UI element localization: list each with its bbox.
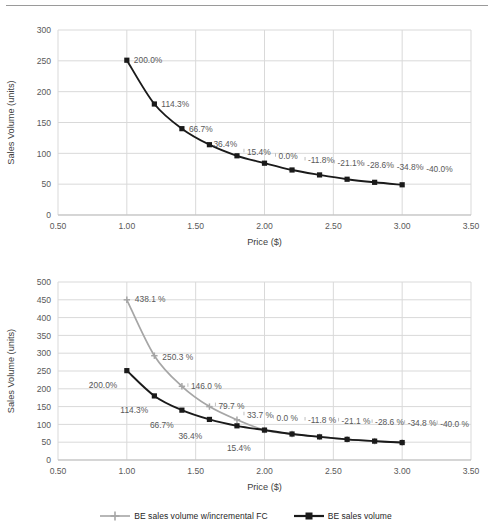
x-axis-tick-label: 0.50: [50, 466, 67, 476]
grid-lines: [58, 30, 471, 215]
data-point-label: -28.6 %: [375, 417, 404, 427]
chart-bottom-container: 0501001502002503003504004505000.501.001.…: [0, 272, 492, 497]
data-point-label: 250.3 %: [162, 352, 193, 362]
y-axis-tick-label: 200: [37, 384, 52, 394]
chart-legend: BE sales volume w/incremental FC BE sale…: [0, 503, 492, 529]
x-axis-tick-label: 3.00: [394, 221, 411, 231]
y-axis-tick-label: 100: [37, 149, 52, 159]
data-point-label: 438.1 %: [135, 294, 166, 304]
x-axis-tick-label: 1.50: [187, 466, 204, 476]
y-axis-tick-labels: 050100150200250300350400450500: [37, 277, 52, 465]
x-axis-title: Price ($): [247, 237, 282, 247]
chart-page: 0501001502002503000.501.001.502.002.503.…: [0, 0, 492, 529]
y-axis-tick-label: 450: [37, 295, 52, 305]
data-point-label: 15.4%: [247, 147, 271, 157]
chart-top-svg: 0501001502002503000.501.001.502.002.503.…: [0, 12, 492, 262]
data-point-label: -21.1%: [338, 158, 365, 168]
x-axis-tick-label: 2.00: [256, 466, 273, 476]
legend-key-cross-icon: [100, 510, 130, 522]
data-point-label: 79.7 %: [218, 401, 245, 411]
y-axis-tick-label: 50: [41, 179, 51, 189]
y-axis-title: Sales Volume (units): [6, 329, 16, 413]
x-axis-tick-label: 1.00: [118, 466, 135, 476]
y-axis-tick-label: 300: [37, 25, 52, 35]
y-axis-tick-label: 350: [37, 331, 52, 341]
legend-label-be-sales-volume: BE sales volume: [328, 511, 392, 521]
x-axis-tick-label: 2.00: [256, 221, 273, 231]
x-axis-tick-label: 1.50: [187, 221, 204, 231]
y-axis-tick-label: 500: [37, 277, 52, 287]
y-axis-tick-labels: 050100150200250300: [37, 25, 52, 220]
chart-top-container: 0501001502002503000.501.001.502.002.503.…: [0, 12, 492, 262]
legend-label-incremental-fc: BE sales volume w/incremental FC: [134, 511, 267, 521]
data-point-label: 146.0 %: [191, 381, 222, 391]
data-point-label: 200.0%: [134, 55, 163, 65]
legend-key-square-icon: [294, 510, 324, 522]
chart-bottom-svg: 0501001502002503003504004505000.501.001.…: [0, 272, 492, 497]
y-axis-tick-label: 100: [37, 420, 52, 430]
y-axis-tick-label: 0: [46, 455, 51, 465]
y-axis-tick-label: 250: [37, 366, 52, 376]
x-axis-tick-labels: 0.501.001.502.002.503.003.50: [50, 466, 480, 476]
y-axis-tick-label: 50: [41, 437, 51, 447]
x-axis-tick-label: 3.50: [463, 221, 480, 231]
x-axis-tick-label: 3.00: [394, 466, 411, 476]
y-axis-tick-label: 150: [37, 118, 52, 128]
data-point-label: 0.0%: [279, 151, 299, 161]
y-axis-tick-label: 300: [37, 348, 52, 358]
data-point-label: 114.3%: [161, 99, 189, 109]
data-point-label: -11.8%: [308, 155, 334, 165]
x-axis-tick-label: 2.50: [325, 221, 342, 231]
x-axis-tick-label: 3.50: [463, 466, 480, 476]
data-point-label: -40.0%: [426, 164, 453, 174]
y-axis-tick-label: 400: [37, 313, 52, 323]
y-axis-title: Sales Volume (units): [6, 80, 16, 164]
x-axis-tick-label: 0.50: [50, 221, 67, 231]
grid-lines: [58, 282, 471, 460]
y-axis-tick-label: 200: [37, 87, 52, 97]
data-point-label: -28.6%: [367, 160, 394, 170]
x-axis-tick-label: 1.00: [118, 221, 135, 231]
x-axis-tick-label: 2.50: [325, 466, 342, 476]
legend-item-be-sales-volume-w-incremental-fc[interactable]: BE sales volume w/incremental FC: [100, 510, 267, 522]
data-point-label: -34.8 %: [408, 418, 437, 428]
series-be-sales-volume: 200.0%114.3%66.7%36.4%15.4%0.0%-11.8%-21…: [124, 55, 453, 187]
data-point-label: -11.8 %: [308, 415, 337, 425]
data-point-label: 114.3%: [120, 405, 148, 415]
data-point-label: -34.8%: [397, 162, 424, 172]
x-axis-tick-labels: 0.501.001.502.002.503.003.50: [50, 221, 480, 231]
data-point-label: 66.7%: [150, 420, 174, 430]
data-point-label: 0.0 %: [277, 413, 299, 423]
x-axis-title: Price ($): [247, 482, 282, 492]
data-point-label: -21.1 %: [342, 416, 371, 426]
legend-item-be-sales-volume[interactable]: BE sales volume: [294, 510, 392, 522]
data-point-label: 15.4%: [227, 443, 251, 453]
data-point-label: 33.7 %: [247, 410, 274, 420]
data-point-label: -40.0 %: [440, 419, 469, 429]
data-point-label: 200.0%: [89, 380, 118, 390]
y-axis-tick-label: 150: [37, 402, 52, 412]
data-point-label: 66.7%: [189, 124, 213, 134]
top-divider-rule: [6, 5, 488, 6]
data-point-label: 36.4%: [213, 139, 237, 149]
y-axis-tick-label: 250: [37, 56, 52, 66]
data-point-label: 36.4%: [178, 431, 202, 441]
y-axis-tick-label: 0: [46, 210, 51, 220]
series-be-sales-volume-w-incremental-fc: 438.1 %250.3 %146.0 %79.7 %33.7 %0.0 %-1…: [124, 294, 470, 446]
